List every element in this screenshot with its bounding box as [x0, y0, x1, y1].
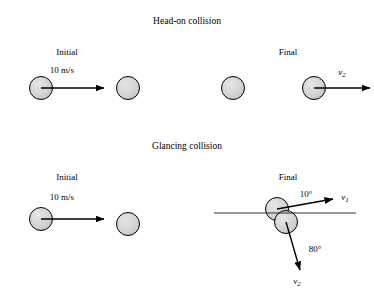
- headon-final-velocity-subscript: 2: [342, 71, 346, 79]
- glancing-final-label: Final: [279, 173, 298, 182]
- glancing-initial-label: Initial: [56, 173, 78, 182]
- glancing-velocity2-subscript: 2: [297, 280, 301, 288]
- glancing-initial-speed-label: 10 m/s: [50, 193, 74, 202]
- figure-canvas: Head-on collision Initial Final 10 m/s v…: [0, 0, 374, 297]
- headon-final-velocity-label: v2: [338, 68, 346, 79]
- glancing-velocity1-label: v1: [341, 193, 349, 204]
- headon-initial-speed-label: 10 m/s: [50, 66, 74, 75]
- glancing-balls: [30, 198, 298, 236]
- glancing-angle-lower-label: 80°: [309, 245, 322, 254]
- headon-initial-label: Initial: [56, 48, 78, 57]
- headon-title: Head-on collision: [153, 17, 221, 27]
- headon-final-label: Final: [279, 48, 298, 57]
- glancing-angle-upper-label: 10°: [300, 190, 313, 199]
- glancing-velocity2-label: v2: [293, 277, 301, 288]
- glancing-velocity1-subscript: 1: [345, 196, 349, 204]
- glancing-arrows: [41, 199, 333, 270]
- glancing-title: Glancing collision: [152, 142, 222, 152]
